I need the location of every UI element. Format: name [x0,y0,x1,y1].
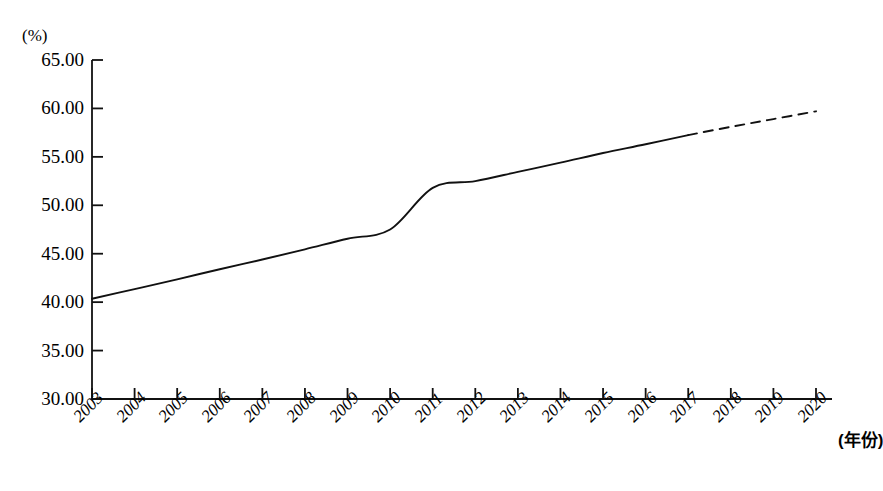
y-axis-tick-label: 40.00 [14,292,84,311]
x-axis-ticks [92,388,816,399]
x-axis-label: (年份) [838,432,883,449]
data-series-group [92,111,816,298]
y-axis-tick-label: 60.00 [14,98,84,117]
y-axis-tick-label: 55.00 [14,147,84,166]
y-axis-tick-label: 35.00 [14,341,84,360]
y-axis-tick-label: 50.00 [14,195,84,214]
y-axis-tick-label: 30.00 [14,389,84,408]
axis-lines [92,60,832,399]
y-axis-tick-label: 65.00 [14,50,84,69]
series-line-actual [92,135,688,299]
y-axis-tick-labels: 65.0060.0055.0050.0045.0040.0035.0030.00 [8,0,84,491]
y-axis-ticks [92,60,103,399]
y-axis-tick-label: 45.00 [14,244,84,263]
series-line-forecast [688,111,816,135]
